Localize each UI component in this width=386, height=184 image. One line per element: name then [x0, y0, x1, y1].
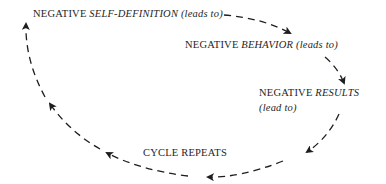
- arrow-left-lower: [50, 104, 100, 149]
- arrow-results-to-bottom: [307, 114, 339, 152]
- node-behavior: NEGATIVE BEHAVIOR (leads to): [185, 40, 338, 51]
- node-cycle-repeats: CYCLE REPEATS: [143, 148, 227, 159]
- node-suffix: (leads to): [296, 39, 338, 50]
- node-self-definition: NEGATIVE SELF-DEFINITION (leads to): [33, 9, 223, 20]
- node-suffix: (leads to): [181, 8, 223, 19]
- node-emphasis: RESULTS: [315, 87, 359, 98]
- node-prefix: NEGATIVE: [259, 87, 313, 98]
- node-results-suffix: (lead to): [259, 103, 297, 114]
- arrow-self-definition-to-behavior: [224, 15, 290, 33]
- node-emphasis: BEHAVIOR: [241, 39, 293, 50]
- node-prefix: NEGATIVE: [185, 39, 239, 50]
- arrow-behavior-to-results: [325, 57, 344, 83]
- arrow-bottom-curve: [208, 161, 283, 177]
- node-prefix: NEGATIVE: [33, 8, 87, 19]
- node-emphasis: SELF-DEFINITION: [89, 8, 178, 19]
- arrow-left-to-self-definition: [26, 24, 45, 97]
- node-results: NEGATIVE RESULTS: [259, 88, 359, 99]
